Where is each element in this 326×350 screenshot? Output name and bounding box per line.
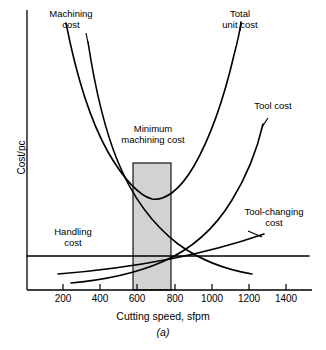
annotation-tool-changing-cost-line1: Tool-changing [228, 206, 320, 217]
annotation-tool-cost-line1: Tool cost [243, 100, 303, 111]
annotation-total-unit-cost-line2: unit cost [201, 19, 279, 30]
annotation-total-unit-cost-line1: Total [201, 8, 279, 19]
x-tick-label-1200: 1200 [232, 293, 266, 304]
annotation-tool-changing-cost: Tool-changing cost [228, 206, 320, 228]
panel-caption: (a) [0, 327, 326, 338]
annotation-handling-cost-line2: cost [36, 237, 110, 248]
x-axis-label: Cutting speed, sfpm [0, 311, 326, 322]
x-tick-label-400: 400 [83, 293, 117, 304]
annotation-machining-cost: Machining cost [34, 8, 108, 30]
annotation-tool-changing-cost-line2: cost [228, 217, 320, 228]
annotation-machining-cost-line2: cost [34, 19, 108, 30]
annotation-minimum-machining-cost-line2: machining cost [106, 134, 200, 145]
annotation-handling-cost-line1: Handling [36, 226, 110, 237]
annotation-tool-cost: Tool cost [243, 100, 303, 111]
x-tick-label-200: 200 [46, 293, 80, 304]
x-axis-ticks [63, 284, 286, 290]
annotation-total-unit-cost: Total unit cost [201, 8, 279, 30]
leader-machining-cost [86, 33, 88, 43]
leader-tool-changing-cost [248, 231, 262, 237]
annotation-machining-cost-line1: Machining [34, 8, 108, 19]
annotation-handling-cost: Handling cost [36, 226, 110, 248]
x-tick-label-800: 800 [158, 293, 192, 304]
annotation-minimum-machining-cost: Minimum machining cost [106, 123, 200, 145]
leader-tool-cost [262, 118, 268, 127]
x-tick-label-1000: 1000 [195, 293, 229, 304]
cost-vs-cutting-speed-figure: Cost/pc 200 400 600 800 1000 1200 1400 M… [0, 0, 326, 350]
annotation-minimum-machining-cost-line1: Minimum [106, 123, 200, 134]
y-axis-label: Cost/pc [16, 128, 27, 188]
x-tick-label-1400: 1400 [269, 293, 303, 304]
x-tick-label-600: 600 [120, 293, 154, 304]
